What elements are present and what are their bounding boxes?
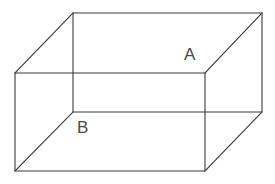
face-label-b: B	[77, 119, 89, 136]
depth-edge-bottom-right	[205, 112, 262, 171]
depth-edge-top-right	[205, 13, 262, 73]
front-face-rectangle	[15, 73, 205, 171]
cuboid-wireframe-svg	[0, 0, 275, 184]
depth-edge-bottom-left	[15, 112, 73, 171]
depth-edge-top-left	[15, 13, 73, 73]
face-label-a: A	[184, 46, 196, 63]
back-face-rectangle	[73, 13, 262, 112]
cuboid-figure: A B	[0, 0, 275, 184]
